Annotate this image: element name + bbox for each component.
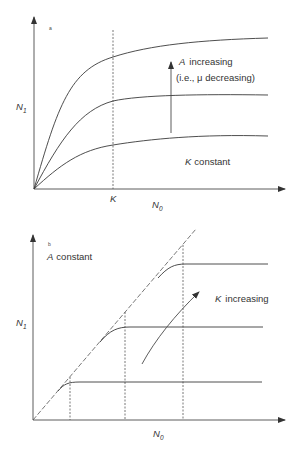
panel-b-k-increase-arrow-icon: [142, 292, 199, 364]
panel-a-x-label: N0: [152, 199, 163, 212]
panel-a-annotation-line1: Aincreasing: [178, 56, 233, 67]
panel-a-curve-high: [34, 38, 268, 189]
panel-b-curve-low: [58, 382, 262, 391]
panel-b-curve-high: [158, 264, 268, 278]
panel-a-k-constant-note: Kconstant: [185, 156, 231, 167]
panel-b-label: b: [48, 241, 51, 247]
panel-b-k-increasing-note: Kincreasing: [215, 293, 269, 304]
panel-a-label: a: [49, 25, 52, 31]
panel-b: b Aconstant Kincreasing N1 N0: [16, 229, 285, 441]
figure: a Aincreasing (i.e., μ decreasing) Kcons…: [0, 0, 299, 456]
panel-a-curve-mid: [34, 95, 268, 189]
panel-a: a Aincreasing (i.e., μ decreasing) Kcons…: [16, 17, 285, 212]
panel-a-y-label: N1: [16, 101, 27, 114]
panel-b-curve-mid: [100, 327, 263, 342]
panel-b-y-label: N1: [16, 317, 27, 330]
panel-a-annotation-line2: (i.e., μ decreasing): [176, 72, 255, 83]
panel-a-curve-low: [34, 136, 268, 189]
panel-b-x-label: N0: [153, 428, 164, 441]
panel-a-k-tick-label: K: [110, 193, 117, 204]
panel-b-a-constant-note: Aconstant: [46, 251, 93, 262]
